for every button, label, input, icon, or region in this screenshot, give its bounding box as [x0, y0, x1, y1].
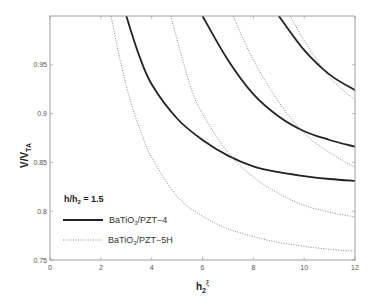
x-axis-ticks: 024681012: [48, 16, 359, 271]
y-tick-label: 0.95: [33, 61, 47, 68]
plot-frame: [50, 16, 355, 260]
x-tick-label: 4: [150, 264, 154, 271]
legend-entry-pzt5h: BaTiO3/PZT−5H: [108, 235, 173, 246]
x-tick-label: 10: [300, 264, 308, 271]
series-line-pzt5h-4: [171, 16, 355, 217]
y-axis-label: V/VTA: [19, 143, 32, 168]
y-tick-label: 0.85: [33, 159, 47, 166]
legend-title: h/h2 = 1.5: [64, 194, 104, 205]
x-tick-label: 6: [201, 264, 205, 271]
series-line-pzt5h-6: [290, 16, 355, 100]
legend-entry-pzt4: BaTiO3/PZT−4: [109, 215, 167, 226]
legend: h/h2 = 1.5 BaTiO3/PZT−4 BaTiO3/PZT−5H: [63, 194, 173, 246]
x-tick-label: 0: [48, 264, 52, 271]
series-line-pzt4-0: [126, 16, 355, 181]
chart: 024681012 0.750.80.850.90.95 h2ξ V/VTA h…: [0, 0, 374, 306]
y-tick-label: 0.75: [33, 257, 47, 264]
x-tick-label: 2: [99, 264, 103, 271]
series-line-pzt4-2: [279, 16, 355, 90]
series-line-pzt4-1: [203, 16, 356, 147]
y-axis-ticks: 0.750.80.850.90.95: [33, 61, 355, 263]
x-axis-label: h2ξ: [196, 279, 209, 294]
x-tick-label: 12: [351, 264, 359, 271]
y-tick-label: 0.8: [37, 208, 47, 215]
y-tick-label: 0.9: [37, 110, 47, 117]
x-tick-label: 8: [251, 264, 255, 271]
